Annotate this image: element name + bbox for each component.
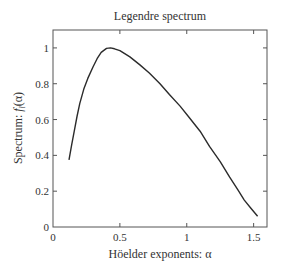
y-axis-label: Spectrum: fl(α) — [11, 92, 27, 164]
x-tick-label: 1 — [184, 231, 190, 243]
x-axis-label: Höelder exponents: α — [109, 247, 213, 261]
y-tick-label: 0 — [44, 221, 50, 233]
x-axis-ticks: 00.511.5 — [50, 30, 261, 243]
legendre-spectrum-figure: Legendre spectrum 00.511.5 00.20.40.60.8… — [0, 0, 284, 271]
y-tick-label: 1 — [44, 42, 50, 54]
y-axis-ticks: 00.20.40.60.81 — [35, 42, 267, 233]
x-tick-label: 1.5 — [247, 231, 261, 243]
y-tick-label: 0.4 — [35, 149, 49, 161]
chart-title: Legendre spectrum — [114, 9, 207, 23]
y-axis-label-suffix: (α) — [11, 92, 25, 106]
chart-canvas: Legendre spectrum 00.511.5 00.20.40.60.8… — [0, 0, 284, 271]
y-axis-label-prefix: Spectrum: — [11, 112, 25, 164]
axes-frame — [53, 30, 267, 227]
y-tick-label: 0.2 — [35, 185, 49, 197]
spectrum-curve — [69, 48, 258, 216]
x-tick-label: 0 — [50, 231, 56, 243]
y-tick-label: 0.8 — [35, 78, 49, 90]
y-tick-label: 0.6 — [35, 114, 49, 126]
x-tick-label: 0.5 — [113, 231, 127, 243]
